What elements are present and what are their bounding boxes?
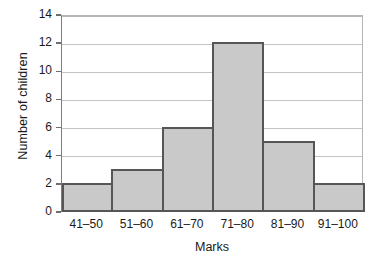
histogram-figure: Number of children 02468101214 41–5051–6…: [0, 0, 381, 265]
bar: [262, 141, 314, 212]
x-axis-title: Marks: [61, 240, 363, 254]
x-tick-label: 61–70: [162, 217, 212, 231]
bar: [162, 127, 214, 212]
x-tick-label: 51–60: [111, 217, 161, 231]
y-tick-label-8: 8: [28, 91, 52, 105]
y-tick-label-10: 10: [28, 63, 52, 77]
x-tick-label: 71–80: [212, 217, 262, 231]
bar: [62, 183, 113, 212]
y-tick-label-0: 0: [28, 204, 52, 218]
bar: [111, 169, 163, 212]
y-tick-label-2: 2: [28, 176, 52, 190]
bar: [313, 183, 365, 212]
bar: [212, 42, 264, 212]
y-tick-label-14: 14: [28, 7, 52, 21]
plot-area: [61, 15, 363, 212]
y-tick-label-6: 6: [28, 120, 52, 134]
y-tick-label-12: 12: [28, 35, 52, 49]
x-tick-label: 91–100: [313, 217, 363, 231]
bar-series: [62, 16, 362, 211]
x-tick-label: 41–50: [61, 217, 111, 231]
y-tick-label-4: 4: [28, 148, 52, 162]
x-tick-label: 81–90: [262, 217, 312, 231]
